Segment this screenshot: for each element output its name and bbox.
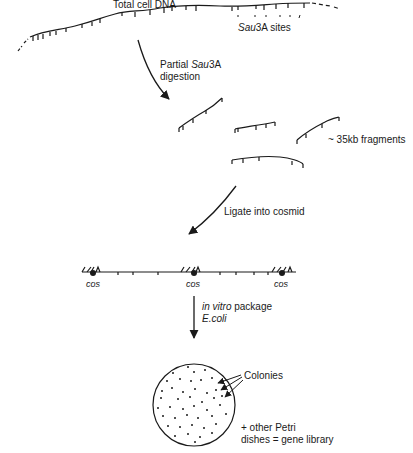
partial-suffix: 3A: [209, 59, 221, 70]
cos-site-3-dot: [279, 270, 285, 276]
sau3a-sites-label: Sau3A sites: [238, 22, 291, 34]
package-text: package: [231, 301, 272, 312]
partial-digestion-label: Partial Sau3A digestion: [160, 59, 221, 83]
cos-label-1: cos: [86, 278, 100, 290]
cos-site-1-dot: [90, 270, 96, 276]
in-vitro-italic: in vitro: [202, 301, 231, 312]
digestion-text: digestion: [160, 71, 221, 83]
cos-label-2: cos: [186, 278, 200, 290]
ligate-label: Ligate into cosmid: [224, 206, 305, 218]
partial-sau-italic: Sau: [191, 59, 209, 70]
cos-label-3: cos: [274, 278, 288, 290]
cos-site-2-dot: [191, 270, 197, 276]
gene-library-label: + other Petri dishes = gene library: [241, 422, 334, 446]
sau3a-sites-suffix: 3A sites: [256, 22, 291, 33]
partial-prefix: Partial: [160, 59, 191, 70]
total-dna-strand: [18, 3, 340, 51]
sau-italic: Sau: [238, 22, 256, 33]
dna-fragments: [179, 98, 339, 168]
gene-library-text: dishes = gene library: [241, 434, 334, 446]
colony-dots: [157, 366, 227, 443]
ecoli-text: E.coli: [202, 313, 272, 325]
fragments-label: ~ 35kb fragments: [328, 134, 406, 146]
cosmid-concatemer: [82, 267, 296, 275]
other-petri-text: + other Petri: [241, 422, 334, 434]
package-label: in vitro package E.coli: [202, 301, 272, 325]
colonies-label: Colonies: [244, 370, 283, 382]
total-dna-label: Total cell DNA: [113, 0, 176, 11]
